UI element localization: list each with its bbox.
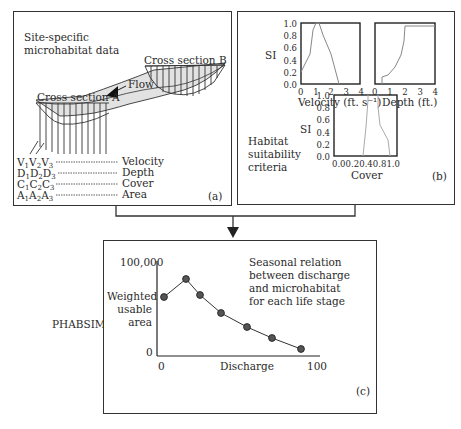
- cover-x-label: Cover: [351, 169, 383, 182]
- x-axis-label: Discharge: [220, 360, 274, 373]
- panel-a-site-data: Site-specific microhabitat data: [13, 11, 232, 206]
- flow-label: Flow: [128, 78, 154, 91]
- panel-b-label: (b): [432, 170, 447, 183]
- data-point: [183, 276, 190, 283]
- velocity-si-label: SI: [265, 49, 276, 62]
- phabsim-label: PHABSIM: [52, 318, 106, 331]
- data-point: [161, 294, 168, 301]
- x-axis-max-label: 100: [307, 360, 327, 373]
- cross-section-a-label: Cross section A: [37, 91, 120, 104]
- cross-section-b-label: Cross section B: [144, 54, 227, 67]
- velocity-x-label: Velocity (ft. s⁻¹): [298, 96, 381, 109]
- panel-c-phabsim: 100,000 0 Weighted usable area 0 Dischar…: [103, 240, 377, 414]
- chart-note: Seasonal relation between discharge and …: [249, 256, 350, 308]
- y-axis-top-label: 100,000: [120, 256, 163, 269]
- suitability-curves: [238, 12, 456, 206]
- data-point: [269, 335, 276, 342]
- cover-y-ticks: 1.00.80.6 0.40.20.0: [312, 90, 330, 163]
- data-point: [218, 310, 225, 317]
- data-point: [244, 324, 251, 331]
- variable-name-area: Area: [122, 188, 147, 201]
- arrow-down-icon: [227, 227, 239, 238]
- velocity-y-ticks: 1.00.80.6 0.40.20.0: [279, 18, 297, 91]
- y-axis-zero-label: 0: [146, 346, 153, 359]
- x-axis-zero-label: 0: [158, 360, 165, 373]
- panel-b-suitability: 1.00.80.6 0.40.20.0 SI 01234 Velocity (f…: [237, 11, 455, 205]
- panel-a-label: (a): [208, 190, 222, 203]
- cover-si-label: SI: [300, 123, 311, 136]
- y-axis-label: Weighted usable area: [107, 290, 152, 329]
- data-point: [298, 346, 305, 353]
- depth-x-label: Depth (ft.): [382, 96, 437, 109]
- data-point: [197, 292, 204, 299]
- variable-row-area: A1A2A3: [17, 189, 53, 206]
- panel-c-label: (c): [356, 385, 370, 398]
- panel-b-title: Habitat suitability criteria: [248, 135, 301, 174]
